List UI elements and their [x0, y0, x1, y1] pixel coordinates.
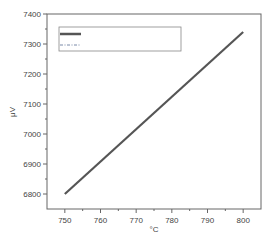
x-axis-label: °C: [150, 225, 159, 234]
x-tick-label: 780: [165, 216, 179, 225]
y-tick-label: 7000: [23, 130, 41, 139]
y-tick-label: 7100: [23, 100, 41, 109]
x-tick-label: 770: [129, 216, 143, 225]
x-axis: 750760770780790800: [58, 209, 250, 225]
series-line-0: [65, 32, 243, 194]
x-tick-label: 750: [58, 216, 72, 225]
chart: 6800690070007100720073007400 75076077078…: [0, 0, 274, 242]
y-tick-label: 7300: [23, 40, 41, 49]
legend: [59, 27, 181, 51]
y-tick-label: 7400: [23, 10, 41, 19]
legend-box: [59, 27, 181, 51]
y-tick-label: 7200: [23, 70, 41, 79]
y-axis-label: μV: [8, 106, 17, 117]
x-tick-label: 760: [94, 216, 108, 225]
y-tick-label: 6800: [23, 190, 41, 199]
y-axis: 6800690070007100720073007400: [23, 10, 47, 199]
x-tick-label: 800: [236, 216, 250, 225]
series-layer: [65, 32, 243, 194]
y-tick-label: 6900: [23, 160, 41, 169]
x-tick-label: 790: [201, 216, 215, 225]
